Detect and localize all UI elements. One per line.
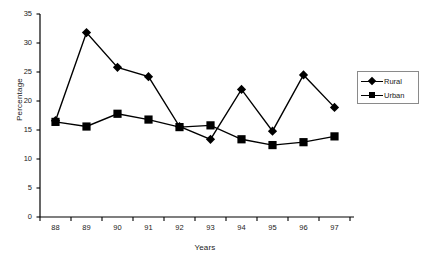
legend-entry-rural: Rural [361, 74, 402, 88]
chart-legend: Rural Urban [357, 71, 419, 104]
legend-entry-urban: Urban [361, 88, 404, 102]
rural-marker-icon [361, 75, 383, 87]
data-series [51, 28, 339, 149]
line-chart: Percentage Years 05101520253035 88899091… [0, 0, 426, 265]
plot-area [0, 0, 426, 265]
urban-marker-icon [361, 89, 383, 101]
legend-label-rural: Rural [384, 77, 402, 86]
legend-label-urban: Urban [384, 91, 404, 100]
axes [37, 14, 355, 221]
